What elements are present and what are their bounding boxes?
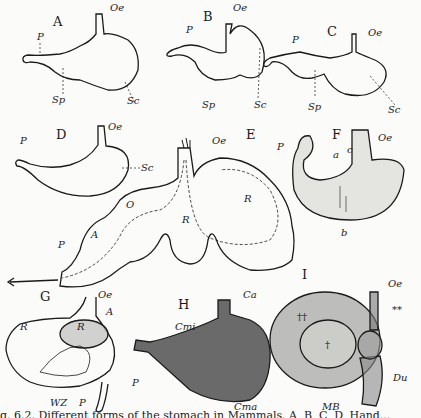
label-c-sp: Sp (308, 102, 321, 112)
label-h-ca: Ca (243, 290, 257, 300)
panel-e-stomach (8, 138, 294, 287)
label-i-du: Du (393, 373, 407, 383)
label-c-sc: Sc (388, 105, 400, 115)
label-d-p: P (20, 136, 27, 146)
label-d-sc: Sc (141, 163, 153, 173)
label-f-c: c (347, 145, 353, 155)
panel-a-stomach (23, 14, 138, 102)
panel-letter-h: H (178, 298, 189, 311)
label-h-p: P (132, 378, 139, 388)
label-f-b: b (341, 228, 347, 238)
label-i-stars: ** (392, 305, 402, 315)
label-i-oe: Oe (388, 279, 402, 289)
figure-caption: g. 6.2. Different forms of the stomach i… (0, 410, 421, 418)
label-f-a: a (333, 150, 339, 160)
label-g-r-left: R (20, 322, 28, 332)
label-e-r-large: R (244, 194, 252, 204)
label-a-oe: Oe (110, 3, 124, 13)
label-e-oe: Oe (212, 136, 226, 146)
label-b-sp: Sp (202, 100, 215, 110)
label-b-sc: Sc (254, 100, 266, 110)
label-h-cmi: Cmi (175, 322, 195, 332)
panel-letter-d: D (56, 128, 66, 141)
label-d-oe: Oe (108, 122, 122, 132)
label-a-sc: Sc (127, 96, 139, 106)
label-e-p: P (58, 240, 65, 250)
panel-g-stomach (6, 297, 115, 412)
label-g-a: A (106, 307, 113, 317)
label-g-wz: WZ (50, 398, 67, 408)
panel-letter-e: E (246, 128, 256, 141)
stomach-diagram-drawing (0, 0, 421, 418)
panel-d-stomach (16, 126, 140, 196)
panel-b-stomach (167, 24, 264, 100)
panel-letter-a: A (53, 15, 62, 28)
label-g-p: P (79, 398, 86, 408)
label-f-p: P (277, 142, 284, 152)
label-i-double-dagger: †† (297, 312, 307, 322)
label-b-oe: Oe (233, 3, 247, 13)
label-c-oe: Oe (368, 28, 382, 38)
label-f-oe: Oe (378, 133, 392, 143)
label-c-p: P (292, 35, 299, 45)
panel-letter-i: I (302, 268, 307, 281)
label-g-oe: Oe (98, 290, 112, 300)
panel-letter-f: F (332, 128, 341, 141)
panel-letter-c: C (327, 25, 337, 38)
panel-h-stomach (134, 300, 270, 402)
label-a-sp: Sp (52, 95, 65, 105)
panel-c-stomach (264, 34, 395, 105)
label-i-dagger: † (325, 340, 330, 350)
label-g-r-right: R (77, 322, 85, 332)
panel-letter-g: G (40, 290, 50, 303)
label-e-r-small: R (182, 215, 190, 225)
label-e-o: O (126, 200, 134, 210)
label-e-a: A (91, 230, 98, 240)
panel-letter-b: B (203, 10, 213, 23)
label-b-p: P (186, 25, 193, 35)
label-a-p: P (37, 32, 44, 42)
